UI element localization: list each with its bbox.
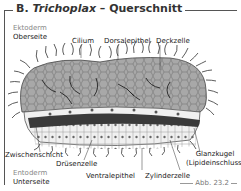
label-deckzelle: Deckzelle bbox=[156, 37, 190, 45]
label-ventralepithel: Ventralepithel bbox=[86, 172, 135, 180]
label-entoderm: Entoderm bbox=[13, 169, 47, 177]
label-unterseite: Unterseite bbox=[13, 178, 49, 186]
figure-number: Abb. 23.2 bbox=[193, 179, 231, 187]
label-glanzkugel: Glanzkugel bbox=[190, 150, 240, 158]
label-zylinderzelle: Zylinderzelle bbox=[145, 172, 190, 180]
label-zwischenschicht: Zwischenschicht bbox=[5, 151, 63, 159]
label-cilium: Cilium bbox=[72, 37, 94, 45]
label-oberseite: Oberseite bbox=[13, 33, 47, 41]
label-ektoderm: Ektoderm bbox=[13, 24, 47, 32]
label-druesenzelle: Drüsenzelle bbox=[56, 160, 97, 168]
label-lipideinschluss: (Lipideinschluss) bbox=[186, 159, 241, 167]
label-dorsalepithel: Dorsalepithel bbox=[104, 37, 151, 45]
